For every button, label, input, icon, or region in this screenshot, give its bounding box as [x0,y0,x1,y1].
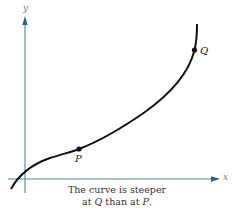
caption-line-1: The curve is steeper [50,184,184,196]
curve-steepness-figure: y x P Q The curve is steeper at Q than a… [0,0,234,211]
y-axis-arrow-icon [22,16,27,25]
x-axis-label: x [223,173,228,182]
caption-line-2: at Q than at P. [50,196,184,208]
point-p-marker [76,146,81,151]
x-axis-arrow-icon [211,176,220,181]
point-q-marker [192,47,197,52]
figure-caption: The curve is steeper at Q than at P. [50,184,184,208]
caption-line-2-prefix: at [82,196,95,207]
curve [11,24,197,189]
point-p-label: P [75,154,82,164]
point-q-label: Q [200,46,208,56]
y-axis-label: y [23,4,28,13]
caption-line-2-suffix: . [149,196,152,207]
caption-line-2-mid: than at [102,196,142,207]
figure-canvas [0,0,234,211]
